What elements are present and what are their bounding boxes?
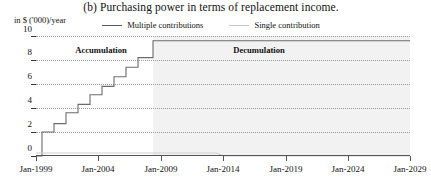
legend-label-single-contribution: Single contribution bbox=[254, 20, 319, 30]
x-tick-label-jan-2014: Jan-2014 bbox=[193, 164, 253, 174]
x-tick-label-jan-1999: Jan-1999 bbox=[6, 164, 66, 174]
x-tick-label-jan-2019: Jan-2019 bbox=[256, 164, 316, 174]
x-tick-mark-jan-2024 bbox=[348, 156, 349, 161]
y-tick-label-4: 4 bbox=[10, 95, 32, 105]
x-tick-mark-jan-2029 bbox=[410, 156, 411, 161]
y-tick-label-2: 2 bbox=[10, 119, 32, 129]
y-tick-label-10: 10 bbox=[10, 24, 32, 34]
x-tick-mark-jan-2009 bbox=[161, 156, 162, 161]
x-tick-mark-jan-2014 bbox=[223, 156, 224, 161]
y-tick-label-0: 0 bbox=[10, 143, 32, 153]
legend-label-multiple-contributions: Multiple contributions bbox=[127, 20, 203, 30]
annotation-decumulation: Decumulation bbox=[214, 45, 304, 55]
x-tick-mark-jan-2019 bbox=[286, 156, 287, 161]
legend-item-multiple-contributions: Multiple contributions bbox=[102, 20, 203, 30]
x-tick-mark-jan-1999 bbox=[36, 156, 37, 161]
legend-swatch-single-contribution bbox=[229, 25, 249, 26]
x-tick-mark-jan-2004 bbox=[98, 156, 99, 161]
legend-swatch-multiple-contributions bbox=[102, 25, 122, 26]
y-tick-label-6: 6 bbox=[10, 71, 32, 81]
x-tick-label-jan-2004: Jan-2004 bbox=[68, 164, 128, 174]
legend-item-single-contribution: Single contribution bbox=[229, 20, 319, 30]
x-tick-label-jan-2024: Jan-2024 bbox=[318, 164, 378, 174]
figure-title: (b) Purchasing power in terms of replace… bbox=[0, 1, 422, 14]
x-tick-label-jan-2009: Jan-2009 bbox=[131, 164, 191, 174]
annotation-accumulation: Accumulation bbox=[56, 45, 146, 55]
x-tick-label-jan-2029: Jan-2029 bbox=[380, 164, 431, 174]
y-tick-label-8: 8 bbox=[10, 47, 32, 57]
